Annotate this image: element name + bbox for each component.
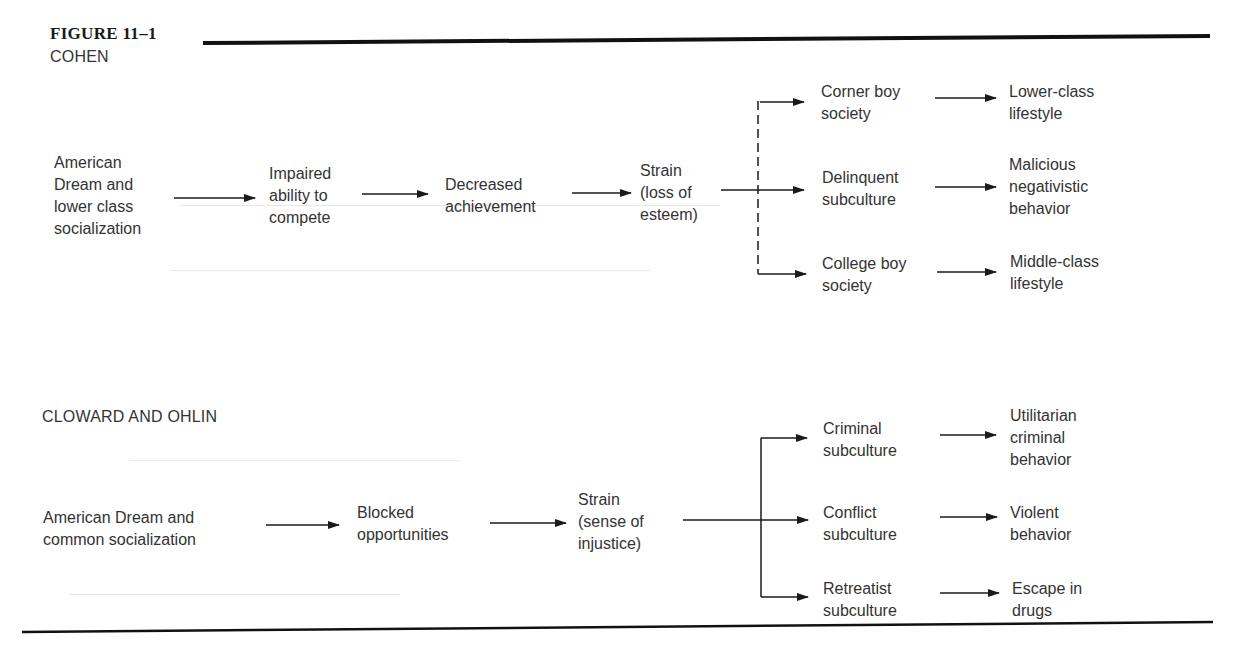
node-delinquent-subculture: Delinquent subculture [822,167,899,211]
node-conflict-subculture: Conflict subculture [823,502,897,546]
node-american-dream-common: American Dream and common socialization [43,507,196,551]
node-utilitarian-criminal-behavior: Utilitarian criminal behavior [1010,405,1077,471]
node-criminal-subculture: Criminal subculture [823,418,897,462]
node-middle-class-lifestyle: Middle-class lifestyle [1010,251,1099,295]
node-lower-class-lifestyle: Lower-class lifestyle [1009,81,1094,125]
section-title-cloward-ohlin: CLOWARD AND OHLIN [42,408,217,426]
top-rule [203,36,1210,43]
node-strain-loss-of-esteem: Strain (loss of esteem) [640,160,698,226]
node-malicious-negativistic-behavior: Malicious negativistic behavior [1009,154,1088,220]
node-retreatist-subculture: Retreatist subculture [823,578,897,622]
node-strain-sense-of-injustice: Strain (sense of injustice) [578,489,644,555]
node-college-boy-society: College boy society [822,253,907,297]
node-escape-in-drugs: Escape in drugs [1012,578,1082,622]
node-impaired-ability: Impaired ability to compete [269,163,331,229]
node-american-dream-lower-class: American Dream and lower class socializa… [54,152,141,240]
bottom-rule [22,622,1213,632]
node-decreased-achievement: Decreased achievement [445,174,536,218]
section-title-cohen: COHEN [50,48,109,66]
node-corner-boy-society: Corner boy society [821,81,900,125]
node-blocked-opportunities: Blocked opportunities [357,502,449,546]
node-violent-behavior: Violent behavior [1010,502,1071,546]
